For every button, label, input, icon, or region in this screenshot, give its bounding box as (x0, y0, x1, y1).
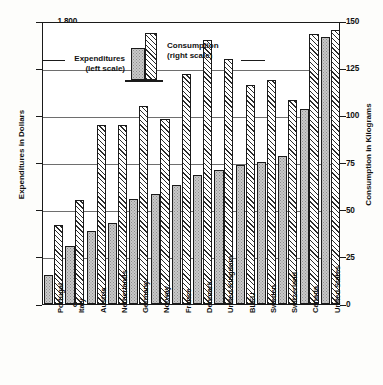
bar-consumption (97, 125, 106, 304)
legend-rule-right (241, 60, 265, 61)
chart-legend: Expenditures (left scale) Consumption (r… (55, 30, 225, 88)
y-tick-label-right: 100 (346, 111, 380, 120)
legend-expenditures-scale: (left scale) (85, 64, 125, 73)
y-axis-title-left: Expenditures in Dollars (17, 80, 26, 230)
x-axis-label: Germany (141, 281, 150, 313)
x-axis-label: Canada (311, 286, 320, 313)
y-tick-label-right: 75 (346, 159, 380, 168)
bar-expenditures (300, 109, 309, 304)
legend-label-expenditures: Expenditures (left scale) (47, 54, 125, 73)
bar-consumption (309, 34, 318, 304)
x-axis-label: France (184, 289, 193, 313)
bar-consumption (75, 200, 84, 304)
legend-swatch-base (125, 80, 163, 82)
y-tick-label-right: 50 (346, 206, 380, 215)
bar-expenditures (214, 170, 223, 304)
bar-expenditures (257, 162, 266, 304)
bar-consumption (160, 119, 169, 304)
legend-label-consumption: Consumption (right scale) (167, 41, 245, 60)
bar-consumption (139, 106, 148, 304)
legend-consumption-name: Consumption (167, 41, 219, 50)
legend-swatch-consumption (145, 33, 157, 80)
bar-consumption (246, 85, 255, 304)
bar-chart: Expenditures in Dollars Consumption in K… (0, 0, 383, 385)
y-tick-label-right: 125 (346, 64, 380, 73)
legend-swatch-expenditures (131, 48, 145, 80)
legend-consumption-scale: (right scale) (167, 51, 212, 60)
x-axis-label: United States (333, 266, 342, 313)
x-axis-label: Italy (77, 298, 86, 313)
bar-consumption (267, 80, 276, 305)
x-axis-label: BLEU (248, 293, 257, 313)
y-tick-label-right: 25 (346, 253, 380, 262)
x-axis-label: Norway (162, 286, 171, 313)
bar-expenditures (151, 194, 160, 304)
bar-expenditures (129, 199, 138, 304)
bar-expenditures (108, 223, 117, 304)
x-axis-label: United Kingdom (226, 256, 235, 313)
x-axis-label: Portugal (56, 283, 65, 313)
y-tick-label-right: 150 (346, 17, 380, 26)
bar-expenditures (172, 185, 181, 304)
bar-expenditures (193, 175, 202, 304)
y-tick-label-right: 0 (346, 300, 380, 309)
bar-expenditures (65, 246, 74, 304)
bar-expenditures (87, 231, 96, 304)
bar-expenditures (236, 165, 245, 304)
bar-consumption (331, 30, 340, 304)
bar-expenditures (321, 37, 330, 304)
x-axis-label: Switzerland (290, 272, 299, 313)
bar-expenditures (278, 156, 287, 304)
legend-expenditures-name: Expenditures (74, 54, 125, 63)
x-axis-label: Austria (99, 288, 108, 313)
x-axis-label: Denmark (205, 281, 214, 313)
x-axis-label: Netherlands (120, 270, 129, 313)
x-axis-label: Sweden (269, 285, 278, 313)
bar-consumption (182, 74, 191, 304)
bar-expenditures (44, 275, 53, 304)
